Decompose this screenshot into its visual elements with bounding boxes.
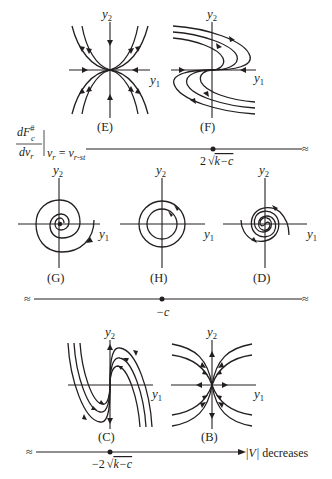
numberline-row3: ≈ −2√k−c |V|decreases	[26, 445, 308, 471]
arrow-icon	[86, 237, 93, 243]
arrow-icon	[209, 413, 215, 419]
arrow-icon	[202, 395, 208, 400]
derivative-label: dF# c dvr vr = vr-st	[16, 123, 86, 162]
panel-f-degenerate-node: y2 y1 (F)	[171, 6, 264, 134]
v-decreases-label: |V|decreases	[246, 446, 308, 460]
arrow-icon	[251, 237, 257, 243]
arrow-icon	[196, 382, 202, 388]
arrow-icon	[107, 40, 113, 46]
panel-c-caption: (C)	[98, 430, 115, 444]
trajectory	[74, 343, 110, 412]
y1-axis-label: y1	[305, 226, 317, 243]
arrow-icon	[240, 67, 246, 73]
y2-axis-label: y2	[103, 324, 115, 341]
y1-axis-label: y1	[150, 386, 162, 403]
panel-g-caption: (G)	[47, 271, 64, 285]
panel-d-caption: (D)	[253, 271, 270, 285]
arrow-icon	[209, 351, 215, 357]
panel-h-caption: (H)	[150, 271, 167, 285]
y2-axis-label: y2	[205, 6, 217, 23]
arrow-icon	[216, 395, 222, 400]
arrow-icon	[82, 414, 87, 420]
trajectory	[68, 343, 110, 422]
panel-h-center: y2 y1 (H)	[120, 162, 214, 285]
trajectory	[173, 38, 224, 70]
point-label-minus-2sqrt-k-minus-c: −2√k−c	[92, 457, 133, 471]
arrow-icon	[203, 91, 209, 97]
arrow-icon	[135, 88, 141, 94]
arrow-icon	[135, 46, 141, 52]
y2-axis-label: y2	[100, 6, 112, 23]
point-label-minus-c: −c	[156, 305, 170, 319]
arrow-icon	[79, 88, 85, 94]
y1-axis-label: y1	[97, 226, 109, 243]
arrow-icon	[222, 382, 228, 388]
arrow-icon	[107, 94, 113, 100]
y1-axis-label: y1	[252, 386, 264, 403]
trajectory	[110, 348, 152, 427]
arrow-icon	[132, 67, 138, 73]
panel-c-degenerate-node: y2 y1 (C)	[68, 324, 162, 444]
critical-point-marker	[211, 147, 216, 152]
svg-text:c: c	[31, 133, 35, 143]
trajectory	[80, 343, 110, 404]
arrow-icon	[99, 400, 104, 404]
break-symbol-left: ≈	[26, 445, 33, 459]
equilibrium-point	[58, 222, 62, 226]
numberline-row1: dF# c dvr vr = vr-st 2√k−c ≈	[16, 123, 309, 168]
numberline-row2: ≈ −c ≈	[24, 292, 309, 319]
svg-text:dvr: dvr	[19, 145, 34, 161]
y2-axis-label: y2	[205, 324, 217, 341]
panel-d-unstable-spiral: y2 y1 (D)	[223, 162, 317, 285]
arrow-icon	[179, 67, 185, 73]
panel-e-stable-node: y2 y1 (E)	[69, 6, 160, 134]
phase-portrait-diagram: y2 y1 (E) y2 y1	[0, 0, 332, 479]
point-label-2sqrt-k-minus-c: 2√k−c	[200, 154, 234, 168]
critical-point-marker	[160, 297, 165, 302]
arrow-icon	[79, 46, 85, 52]
spiral-trajectory-2	[241, 211, 279, 241]
y1-axis-label: y1	[252, 70, 264, 87]
y2-axis-label: y2	[257, 162, 269, 179]
arrow-icon	[82, 67, 88, 73]
y1-axis-label: y1	[148, 72, 160, 89]
break-symbol-left: ≈	[24, 292, 31, 306]
trajectory	[110, 358, 146, 427]
panel-g-stable-spiral: y2 y1 (G)	[18, 162, 109, 285]
break-symbol: ≈	[302, 142, 309, 156]
y2-axis-label: y2	[154, 162, 166, 179]
svg-text:vr = vr-st: vr = vr-st	[47, 146, 86, 162]
panel-e-caption: (E)	[97, 120, 113, 134]
arrow-icon	[107, 418, 113, 424]
arrow-right-icon	[238, 449, 246, 455]
panel-f-caption: (F)	[200, 120, 215, 134]
critical-point-marker	[108, 450, 113, 455]
arrow-icon	[216, 370, 222, 375]
spiral-trajectory	[36, 200, 94, 252]
arrow-icon	[133, 350, 138, 356]
arrow-icon	[202, 370, 208, 375]
y1-axis-label: y1	[202, 226, 214, 243]
arrow-icon	[107, 344, 113, 350]
panel-b-unstable-node: y2 y1 (B)	[171, 324, 264, 444]
trajectory	[110, 366, 140, 427]
trajectory	[200, 70, 255, 102]
y2-axis-label: y2	[51, 162, 63, 179]
break-symbol-right: ≈	[302, 292, 309, 306]
panel-b-caption: (B)	[201, 430, 218, 444]
